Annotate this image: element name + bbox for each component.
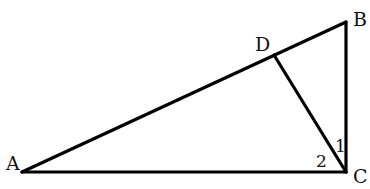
triangle-diagram: A B C D 1 2	[0, 0, 370, 189]
angle-1-label: 1	[335, 136, 346, 156]
segment-AB	[22, 22, 346, 172]
label-C: C	[353, 165, 368, 187]
angle-2-label: 2	[316, 151, 327, 171]
label-D: D	[255, 33, 270, 55]
label-A: A	[5, 152, 20, 174]
label-B: B	[353, 8, 367, 30]
